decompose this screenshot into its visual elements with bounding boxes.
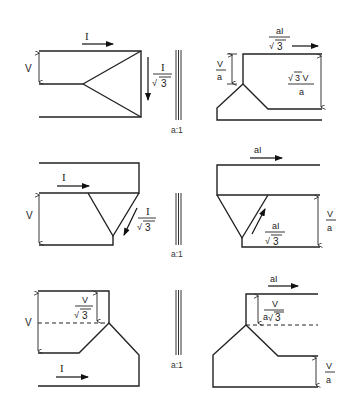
current-label: I [62,171,66,183]
voltage-label: V [25,63,32,74]
svg-text:V: V [272,299,278,309]
line-voltage-fraction: V a [325,361,335,385]
sqrt-icon: √ [265,236,270,246]
svg-text:V: V [82,295,88,305]
svg-text:3: 3 [273,236,279,247]
line-current-label: aI [270,274,278,284]
row-1-primary-star: I V I √ 3 [25,30,172,117]
transformer-connections-diagram: I V I √ 3 a:1 aI √ 3 [0,0,357,411]
line-voltage-fraction: √ 3 V a [288,72,314,97]
svg-text:3 V: 3 V [295,73,309,83]
sqrt-icon: √ [137,222,142,232]
line-voltage-fraction: V a [326,209,336,233]
svg-text:3: 3 [82,310,88,321]
phase-current-arrow-icon [124,208,137,235]
sqrt-icon: √ [74,310,79,320]
svg-text:a: a [217,72,222,82]
svg-text:a: a [326,375,331,385]
phase-current-fraction: I √ 3 [152,61,172,89]
current-label: I [85,30,89,42]
svg-text:3: 3 [145,222,151,233]
row-2-core: a:1 [171,193,183,259]
turns-ratio-label: a:1 [171,249,183,259]
row-2-primary-delta: I V I √ 3 [26,163,156,245]
row-3-primary-star: V V √ 3 I [25,291,139,386]
svg-text:aI: aI [272,221,280,231]
sqrt-icon: √ [288,73,293,83]
sqrt-icon: √ [152,78,157,88]
svg-text:aI: aI [276,26,284,36]
svg-text:V: V [326,361,332,371]
voltage-label: V [25,317,32,328]
phase-voltage-fraction: V a [216,59,226,82]
row-3-secondary-star: aI V a √ 3 V a [213,274,335,387]
svg-text:3: 3 [161,78,167,89]
sqrt-icon: √ [269,41,274,51]
phase-current-arrow-icon [252,209,265,234]
svg-text:3: 3 [277,41,283,52]
svg-text:a: a [299,87,304,97]
turns-ratio-label: a:1 [171,360,183,370]
phase-current-fraction: I √ 3 [137,205,156,233]
svg-text:V: V [217,59,223,69]
row-2-secondary-delta: aI aI √ 3 V a [217,145,336,247]
svg-text:V: V [327,209,333,219]
phase-voltage-fraction: V √ 3 [74,295,93,321]
svg-text:I: I [146,205,150,217]
current-label: I [60,362,64,374]
sqrt-icon: √ [268,313,273,323]
svg-text:I: I [161,61,165,73]
turns-ratio-label: a:1 [171,125,183,135]
row-1-core: a:1 [171,50,183,135]
line-current-label: aI [254,145,262,155]
line-current-fraction: aI √ 3 [269,26,290,52]
phase-voltage-fraction: V a √ 3 [263,299,284,323]
row-3-core: a:1 [171,290,183,370]
phase-current-fraction: aI √ 3 [265,221,285,247]
row-1-secondary-star: aI √ 3 V a √ 3 V a [216,26,322,120]
voltage-label: V [26,210,33,221]
svg-text:3: 3 [275,312,281,323]
svg-text:a: a [327,223,332,233]
